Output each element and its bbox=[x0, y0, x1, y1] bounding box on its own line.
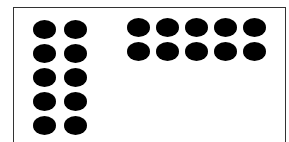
dot-icon bbox=[33, 116, 56, 135]
dot-icon bbox=[156, 18, 179, 37]
dot-icon bbox=[33, 92, 56, 111]
dot-icon bbox=[33, 20, 56, 39]
dot-icon bbox=[214, 42, 237, 61]
dot-icon bbox=[185, 18, 208, 37]
dot-icon bbox=[64, 92, 87, 111]
dot-icon bbox=[64, 44, 87, 63]
dot-icon bbox=[64, 20, 87, 39]
dot-icon bbox=[156, 42, 179, 61]
dot-icon bbox=[243, 18, 266, 37]
dot-icon bbox=[127, 18, 150, 37]
dot-icon bbox=[214, 18, 237, 37]
dot-icon bbox=[64, 116, 87, 135]
dot-icon bbox=[127, 42, 150, 61]
dot-icon bbox=[33, 68, 56, 87]
dot-icon bbox=[243, 42, 266, 61]
dot-icon bbox=[33, 44, 56, 63]
dot-icon bbox=[64, 68, 87, 87]
dot-icon bbox=[185, 42, 208, 61]
